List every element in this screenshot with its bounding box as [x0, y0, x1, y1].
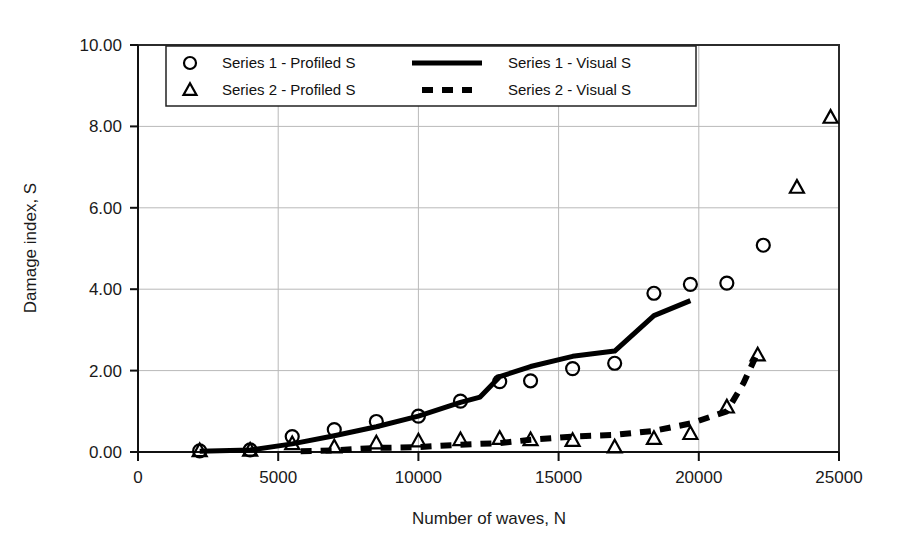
chart-figure: 0.002.004.006.008.0010.00 05000100001500… — [0, 0, 910, 542]
x-tick-label: 20000 — [675, 468, 722, 487]
series-line — [200, 301, 691, 452]
legend-label: Series 1 - Profiled S — [222, 54, 355, 71]
y-tick-label: 6.00 — [89, 199, 122, 218]
legend-label: Series 1 - Visual S — [508, 54, 631, 71]
x-axis: 0500010000150002000025000 — [133, 452, 862, 487]
y-tick-label: 4.00 — [89, 280, 122, 299]
x-tick-label: 5000 — [259, 468, 297, 487]
x-tick-label: 25000 — [815, 468, 862, 487]
x-axis-title: Number of waves, N — [412, 509, 566, 528]
legend: Series 1 - Profiled SSeries 1 - Visual S… — [166, 46, 696, 106]
y-tick-label: 0.00 — [89, 443, 122, 462]
legend-label: Series 2 - Visual S — [508, 81, 631, 98]
data-point-triangle — [683, 426, 697, 439]
data-point-circle — [566, 362, 579, 375]
x-tick-label: 0 — [133, 468, 142, 487]
y-axis: 0.002.004.006.008.0010.00 — [79, 36, 138, 462]
data-point-triangle — [790, 180, 804, 193]
y-axis-title: Damage index, S — [21, 183, 40, 313]
series-series-2-profiled-s — [193, 110, 838, 456]
data-point-circle — [757, 239, 770, 252]
y-tick-label: 2.00 — [89, 362, 122, 381]
data-point-triangle — [824, 110, 838, 123]
x-tick-label: 15000 — [535, 468, 582, 487]
data-point-circle — [720, 277, 733, 290]
damage-index-chart: 0.002.004.006.008.0010.00 05000100001500… — [0, 0, 910, 542]
data-point-circle — [608, 357, 621, 370]
legend-label: Series 2 - Profiled S — [222, 81, 355, 98]
y-tick-label: 8.00 — [89, 117, 122, 136]
data-point-circle — [524, 374, 537, 387]
y-tick-label: 10.00 — [79, 36, 122, 55]
series-series-1-visual-s — [200, 301, 691, 452]
data-point-triangle — [608, 440, 622, 453]
series-layer — [193, 110, 838, 457]
x-tick-label: 10000 — [395, 468, 442, 487]
